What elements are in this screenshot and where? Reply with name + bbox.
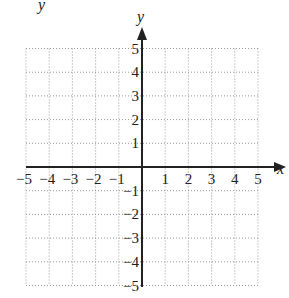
x-tick-label: 1 xyxy=(161,171,169,187)
y-axis-label: y xyxy=(135,8,145,26)
y-tick-label: −5 xyxy=(123,278,139,294)
x-tick-label: 2 xyxy=(185,171,193,187)
axes xyxy=(26,27,286,287)
x-tick-label: −3 xyxy=(62,171,78,187)
x-tick-label: −5 xyxy=(16,171,32,187)
x-tick-label: 4 xyxy=(231,171,239,187)
x-tick-label: −4 xyxy=(39,171,55,187)
x-axis-label: x xyxy=(276,160,284,177)
x-tick-label: 3 xyxy=(208,171,216,187)
y-tick-label: 3 xyxy=(132,88,140,104)
y-tick-label: 2 xyxy=(132,112,140,128)
x-tick-label: −2 xyxy=(86,171,102,187)
y-tick-label: 4 xyxy=(132,64,140,80)
cropped-title-glyph: y xyxy=(36,0,46,14)
coordinate-plane: y x y −5−4−3−2−112345 54321−1−2−3−4−5 xyxy=(0,0,289,298)
y-tick-label: −4 xyxy=(123,254,139,270)
y-tick-label: 1 xyxy=(132,135,140,151)
y-axis-arrow-icon xyxy=(137,27,147,40)
y-tick-label: 5 xyxy=(132,41,140,57)
y-tick-label: −1 xyxy=(123,183,139,199)
x-tick-label: 5 xyxy=(254,171,262,187)
y-tick-label: −3 xyxy=(123,230,139,246)
y-tick-label: −2 xyxy=(123,206,139,222)
